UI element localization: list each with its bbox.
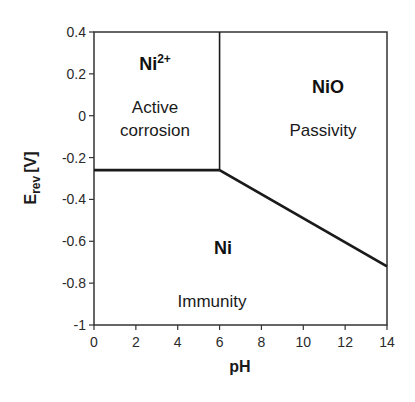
phase-boundaries [94, 32, 387, 266]
plot-frame [94, 32, 387, 325]
y-tick-label: 0 [78, 108, 86, 124]
y-axis-title: Erev[V] [22, 151, 43, 204]
x-tick-label: 10 [295, 334, 311, 350]
pourbaix-chart: 0.40.20-0.2-0.4-0.6-0.8-1 02468101214 Ni… [0, 0, 415, 402]
y-tick-label: 0.4 [67, 24, 87, 40]
x-tick-label: 8 [258, 334, 266, 350]
x-tick-label: 2 [132, 334, 140, 350]
y-tick-label: -0.8 [62, 275, 86, 291]
y-tick-label: -0.2 [62, 150, 86, 166]
boundary-line [220, 170, 387, 266]
x-tick-label: 14 [379, 334, 395, 350]
x-tick-label: 0 [90, 334, 98, 350]
y-axis: 0.40.20-0.2-0.4-0.6-0.8-1 [62, 24, 94, 333]
region-nio-desc: Passivity [289, 121, 357, 140]
x-tick-label: 4 [174, 334, 182, 350]
region-ni-title: Ni [214, 238, 232, 258]
x-axis-title: pH [229, 358, 250, 375]
region-ni2plus-title: Ni2+ [139, 52, 171, 74]
x-axis: 02468101214 [90, 325, 395, 350]
y-tick-label: -0.4 [62, 191, 86, 207]
y-tick-label: -0.6 [62, 233, 86, 249]
region-ni2plus-desc-line2: corrosion [120, 121, 190, 140]
x-tick-label: 12 [337, 334, 353, 350]
region-ni2plus-desc-line1: Active [132, 98, 178, 117]
region-nio-title: NiO [312, 77, 344, 97]
y-tick-label: -1 [74, 317, 87, 333]
y-tick-label: 0.2 [67, 66, 87, 82]
region-ni-desc: Immunity [178, 292, 247, 311]
x-tick-label: 6 [216, 334, 224, 350]
